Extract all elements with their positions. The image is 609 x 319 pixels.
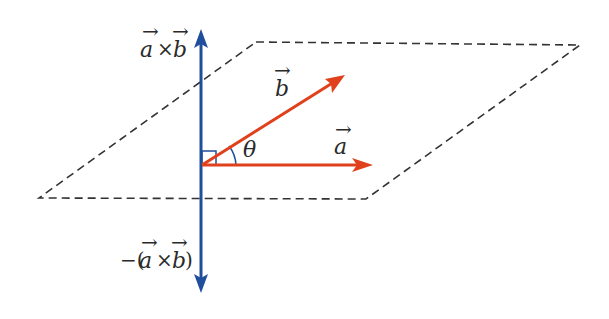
label-a-cross-b: a → × b → bbox=[140, 19, 189, 62]
vector-b-arrowhead-icon bbox=[325, 75, 345, 93]
plane-parallelogram bbox=[39, 42, 580, 199]
svg-text:→: → bbox=[274, 58, 291, 82]
label-neg-a-cross-b: −( a → × b → ) bbox=[120, 230, 193, 273]
label-vector-a: a → bbox=[334, 117, 352, 159]
svg-text:→: → bbox=[335, 117, 352, 141]
svg-text:→: → bbox=[172, 19, 189, 43]
vector-b-line bbox=[202, 82, 334, 165]
label-vector-b: b → bbox=[274, 58, 291, 101]
label-theta: θ bbox=[243, 137, 256, 162]
svg-text:): ) bbox=[185, 248, 193, 272]
cross-product-diagram: a → × b → −( a → × b → ) b → a → θ bbox=[0, 0, 609, 319]
